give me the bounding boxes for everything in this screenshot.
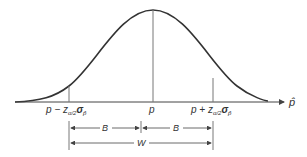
- center-label: p: [148, 104, 155, 115]
- axis-label: p̂: [288, 96, 295, 108]
- upper-limit-label: p + zα/2σp̂: [190, 104, 232, 116]
- bound-left-label: B: [102, 123, 108, 133]
- bell-curve: [15, 10, 268, 102]
- lower-limit-label: p − zα/2σp̂: [45, 104, 87, 116]
- normal-curve-diagram: p̂ p p − zα/2σp̂ p + zα/2σp̂ B B W: [0, 0, 307, 157]
- width-label: W: [137, 138, 147, 148]
- bound-right-label: B: [173, 123, 179, 133]
